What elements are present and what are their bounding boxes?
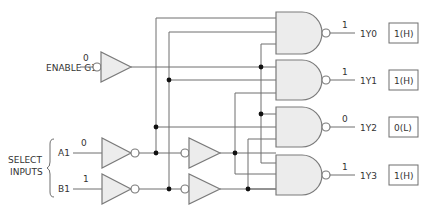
b-second-inverter-bubble-icon	[181, 185, 189, 193]
y1-label: 1Y1	[360, 76, 377, 86]
y0-state: 1(H)	[394, 29, 414, 39]
nand-gate-y3-icon	[276, 155, 322, 195]
y0-label: 1Y0	[360, 29, 377, 39]
junction-dot	[259, 65, 264, 70]
select-brace	[47, 139, 54, 197]
b1-inverter-gate-icon	[102, 174, 131, 204]
decoder-logic-diagram: ENABLE G1 0 SELECT INPUTS A1 0 B1 1	[0, 0, 428, 212]
junction-dot	[167, 78, 172, 83]
a1-inverter-gate-icon	[102, 138, 131, 168]
y0-output-bubble-icon	[322, 29, 330, 37]
a1-level: 0	[81, 138, 87, 148]
y2-state: 0(L)	[394, 123, 412, 133]
junction-dot	[154, 151, 159, 156]
y1-state: 1(H)	[394, 76, 414, 86]
b-true-to-y2	[248, 139, 276, 189]
a-true-to-y1	[235, 93, 276, 153]
nand-gate-y2-icon	[276, 107, 322, 147]
nand-gate-y1-icon	[276, 60, 322, 100]
y3-level: 1	[342, 162, 348, 172]
y3-state: 1(H)	[394, 171, 414, 181]
y2-output-bubble-icon	[322, 123, 330, 131]
enable-to-y0	[261, 44, 276, 67]
b1-level: 1	[83, 174, 89, 184]
a-bar-bus	[156, 18, 276, 153]
a-second-inverter-gate-icon	[189, 138, 220, 168]
y1-level: 1	[342, 67, 348, 77]
junction-dot	[154, 125, 159, 130]
y1-output-bubble-icon	[322, 76, 330, 84]
enable-inverter-bubble-icon	[93, 63, 101, 71]
junction-dot	[233, 151, 238, 156]
y2-level: 0	[342, 114, 348, 124]
enable-to-y3	[261, 67, 276, 163]
select-label-1: SELECT	[8, 155, 42, 165]
y3-label: 1Y3	[360, 171, 377, 181]
a1-inverter-bubble-icon	[131, 149, 139, 157]
a1-label: A1	[58, 148, 70, 158]
a-second-inverter-bubble-icon	[181, 149, 189, 157]
junction-dot	[259, 112, 264, 117]
y2-label: 1Y2	[360, 123, 377, 133]
b1-inverter-bubble-icon	[131, 185, 139, 193]
enable-buffer-gate-icon	[101, 52, 131, 82]
enable-level: 0	[83, 53, 89, 63]
nand-gate-y0-icon	[276, 12, 322, 54]
enable-label: ENABLE G1	[46, 63, 97, 73]
y0-level: 1	[342, 20, 348, 30]
b-second-inverter-gate-icon	[189, 174, 220, 204]
select-label-2: INPUTS	[10, 167, 43, 177]
b1-label: B1	[58, 184, 70, 194]
y3-output-bubble-icon	[322, 171, 330, 179]
junction-dot	[246, 187, 251, 192]
junction-dot	[167, 187, 172, 192]
b-bar-bus	[169, 32, 276, 189]
